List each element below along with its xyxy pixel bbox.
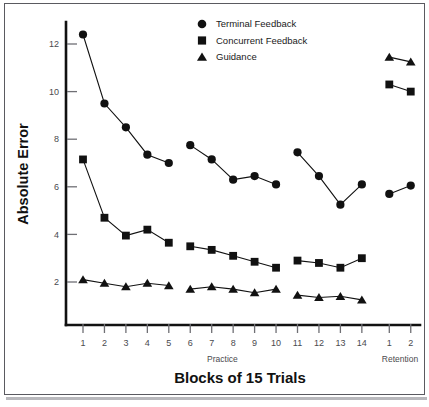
y-tick-label: 2 <box>54 277 59 287</box>
circle-marker <box>100 99 108 107</box>
phase-labels: PracticeRetention <box>207 354 418 364</box>
triangle-marker <box>293 291 303 299</box>
square-marker <box>79 156 87 164</box>
square-marker <box>315 259 323 267</box>
triangle-marker <box>78 275 88 283</box>
square-marker <box>407 88 415 96</box>
series-square <box>79 81 415 272</box>
triangle-marker <box>143 279 153 287</box>
square-marker <box>337 264 345 272</box>
square-marker <box>251 258 259 266</box>
legend-square-icon <box>198 36 206 44</box>
x-tick-label: 7 <box>209 338 214 348</box>
triangle-marker <box>385 53 395 61</box>
y-tick-label: 10 <box>49 87 59 97</box>
square-marker <box>101 214 109 222</box>
x-axis-title: Blocks of 15 Trials <box>174 369 306 386</box>
series-line-segment <box>83 34 169 163</box>
square-marker <box>385 81 393 89</box>
series-line-segment <box>83 159 169 242</box>
square-marker <box>294 257 302 265</box>
circle-marker <box>122 123 130 131</box>
x-tick-label: 10 <box>271 338 281 348</box>
x-tick-label: 3 <box>123 338 128 348</box>
x-tick-label: 11 <box>293 338 302 348</box>
y-axis-ticks: 24681012 <box>49 39 77 287</box>
y-tick-label: 6 <box>54 182 59 192</box>
legend-label: Concurrent Feedback <box>216 35 308 46</box>
x-tick-label: 13 <box>335 338 345 348</box>
circle-marker <box>208 155 216 163</box>
square-marker <box>122 232 130 240</box>
circle-marker <box>229 176 237 184</box>
circle-marker <box>272 180 280 188</box>
legend-triangle-icon <box>197 52 207 60</box>
circle-marker <box>315 172 323 180</box>
y-tick-label: 12 <box>49 39 59 49</box>
x-tick-label: 4 <box>145 338 150 348</box>
square-marker <box>143 226 151 234</box>
chart-canvas: 24681012 123456789101112131412 Terminal … <box>0 0 429 407</box>
x-tick-label: 5 <box>166 338 171 348</box>
x-tick-label: 6 <box>188 338 193 348</box>
square-marker <box>165 239 173 247</box>
square-marker <box>186 242 194 250</box>
circle-marker <box>165 159 173 167</box>
square-marker <box>358 254 366 262</box>
series-line-segment <box>298 295 362 300</box>
circle-marker <box>293 148 301 156</box>
legend-circle-icon <box>198 20 207 29</box>
phase-label: Practice <box>207 354 238 364</box>
figure-container: 24681012 123456789101112131412 Terminal … <box>0 0 429 407</box>
y-tick-label: 4 <box>54 230 59 240</box>
circle-marker <box>143 151 151 159</box>
x-axis-ticks: 123456789101112131412 <box>80 324 413 348</box>
x-tick-label: 2 <box>408 338 413 348</box>
series-line-segment <box>298 152 362 204</box>
x-tick-label: 8 <box>231 338 236 348</box>
y-tick-label: 8 <box>54 134 59 144</box>
legend-label: Terminal Feedback <box>216 18 297 29</box>
square-marker <box>229 252 237 260</box>
x-tick-label: 2 <box>102 338 107 348</box>
circle-marker <box>79 30 87 38</box>
x-tick-label: 12 <box>314 338 324 348</box>
series-layer <box>78 30 415 303</box>
square-marker <box>272 264 280 272</box>
phase-label: Retention <box>382 354 419 364</box>
circle-marker <box>186 141 194 149</box>
y-axis-title: Absolute Error <box>15 123 31 225</box>
legend-label: Guidance <box>216 51 257 62</box>
circle-marker <box>251 172 259 180</box>
x-tick-label: 14 <box>357 338 367 348</box>
x-tick-label: 1 <box>387 338 392 348</box>
series-line-segment <box>298 258 362 268</box>
triangle-marker <box>207 282 217 290</box>
square-marker <box>208 246 216 254</box>
triangle-marker <box>271 285 281 293</box>
circle-marker <box>407 182 415 190</box>
circle-marker <box>385 190 393 198</box>
circle-marker <box>336 201 344 209</box>
triangle-marker <box>336 292 346 300</box>
series-triangle <box>78 53 415 304</box>
x-tick-label: 1 <box>80 338 85 348</box>
circle-marker <box>358 180 366 188</box>
x-tick-label: 9 <box>252 338 257 348</box>
chart-legend: Terminal FeedbackConcurrent FeedbackGuid… <box>197 18 308 62</box>
